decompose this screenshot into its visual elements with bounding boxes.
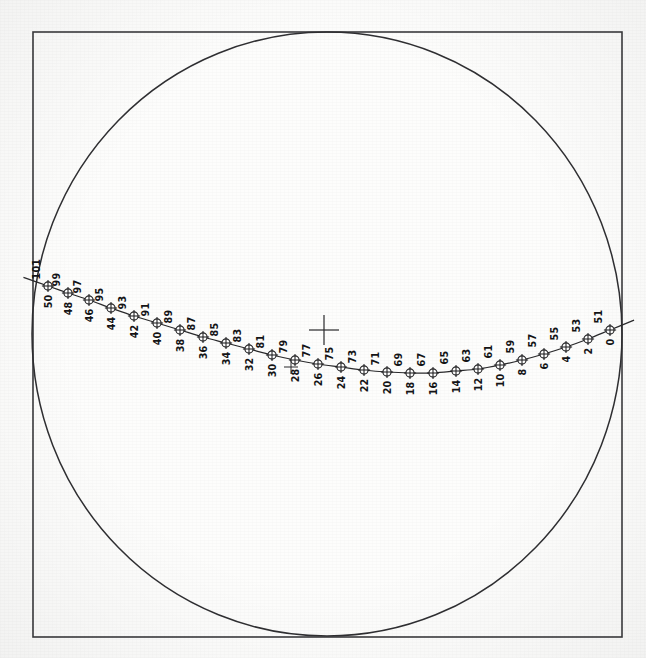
- data-point-marker: [105, 302, 117, 314]
- point-label-upper: 53: [571, 319, 582, 333]
- data-point-marker: [358, 364, 370, 376]
- point-label-lower: 2: [583, 348, 594, 355]
- point-label-upper: 57: [527, 334, 538, 348]
- figure-page: 1015099489746954493429140893887368534833…: [0, 0, 646, 658]
- data-point-marker: [174, 324, 186, 336]
- data-point-marker: [538, 348, 550, 360]
- point-label-upper: 69: [393, 353, 404, 367]
- point-label-lower: 34: [221, 351, 232, 365]
- point-label-upper: 77: [301, 344, 312, 358]
- point-label-lower: 10: [495, 373, 506, 387]
- point-label-upper: 51: [593, 310, 604, 324]
- point-label-lower: 0: [605, 338, 616, 345]
- data-point-marker: [404, 367, 416, 379]
- data-point-marker: [197, 331, 209, 343]
- data-point-marker: [128, 310, 140, 322]
- data-point-marker: [266, 349, 278, 361]
- point-label-upper: 89: [163, 310, 174, 324]
- point-label-lower: 18: [405, 381, 416, 395]
- point-label-lower: 32: [244, 358, 255, 372]
- data-point-marker: [472, 363, 484, 375]
- point-label-lower: 48: [63, 301, 74, 315]
- point-label-upper: 87: [186, 317, 197, 331]
- point-label-lower: 14: [451, 379, 462, 393]
- point-label-upper: 81: [255, 335, 266, 349]
- point-label-lower: 50: [43, 294, 54, 308]
- point-label-lower: 42: [129, 325, 140, 339]
- point-label-lower: 30: [267, 363, 278, 377]
- point-label-lower: 36: [198, 345, 209, 359]
- point-label-lower: 6: [539, 362, 550, 369]
- point-label-lower: 38: [175, 338, 186, 352]
- point-label-lower: 12: [473, 378, 484, 392]
- point-label-upper: 73: [347, 350, 358, 364]
- point-label-upper: 99: [51, 273, 62, 287]
- data-point-labels: 1015099489746954493429140893887368534833…: [31, 259, 617, 396]
- reference-cross: [309, 315, 339, 345]
- point-label-upper: 55: [549, 327, 560, 341]
- data-point-marker: [381, 366, 393, 378]
- data-point-marker: [450, 365, 462, 377]
- point-label-lower: 16: [428, 381, 439, 395]
- point-label-upper: 65: [439, 351, 450, 365]
- data-point-marker: [243, 343, 255, 355]
- data-point-marker: [494, 359, 506, 371]
- point-label-upper: 85: [209, 323, 220, 337]
- point-label-lower: 8: [517, 368, 528, 375]
- point-label-upper: 63: [461, 349, 472, 363]
- data-point-marker: [220, 337, 232, 349]
- point-label-lower: 20: [382, 380, 393, 394]
- point-label-upper: 75: [324, 347, 335, 361]
- point-label-upper: 101: [31, 259, 42, 280]
- data-point-marker: [151, 317, 163, 329]
- point-label-lower: 26: [313, 372, 324, 386]
- point-label-upper: 97: [72, 280, 83, 294]
- data-point-marker: [312, 358, 324, 370]
- data-point-marker: [427, 367, 439, 379]
- point-label-upper: 71: [370, 352, 381, 366]
- point-label-upper: 93: [117, 296, 128, 310]
- point-label-upper: 83: [232, 329, 243, 343]
- arc-plot-figure: 1015099489746954493429140893887368534833…: [0, 0, 646, 658]
- point-label-upper: 79: [278, 340, 289, 354]
- point-label-upper: 67: [416, 353, 427, 367]
- point-label-upper: 59: [505, 340, 516, 354]
- point-label-lower: 22: [359, 379, 370, 393]
- point-label-upper: 61: [483, 345, 494, 359]
- data-point-marker: [582, 333, 594, 345]
- data-point-marker: [516, 354, 528, 366]
- point-label-lower: 44: [106, 316, 117, 330]
- data-point-marker: [335, 361, 347, 373]
- point-label-lower: 4: [561, 355, 572, 362]
- point-label-lower: 28: [290, 368, 301, 382]
- data-point-marker: [604, 324, 616, 336]
- point-label-lower: 46: [84, 308, 95, 322]
- point-label-upper: 91: [140, 303, 151, 317]
- point-label-lower: 24: [336, 375, 347, 389]
- point-label-upper: 95: [94, 288, 105, 302]
- data-point-marker: [560, 341, 572, 353]
- point-label-lower: 40: [152, 331, 163, 345]
